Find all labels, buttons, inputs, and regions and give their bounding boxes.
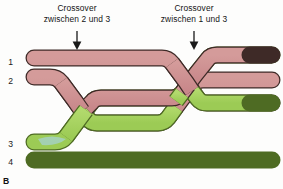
arrow-crossover-2-3 <box>73 31 82 50</box>
green-front-arms <box>66 110 86 137</box>
figure-canvas: Crossover zwischen 2 und 3 Crossover zwi… <box>0 0 283 189</box>
strand-label-1: 1 <box>1 57 13 67</box>
chromatid-crossover-diagram <box>0 0 283 189</box>
panel-label: B <box>3 176 9 186</box>
strand-label-4: 4 <box>1 157 13 167</box>
arrow-crossover-1-3 <box>190 31 199 50</box>
strand-label-2: 2 <box>1 76 13 86</box>
strand-label-3: 3 <box>1 139 13 149</box>
